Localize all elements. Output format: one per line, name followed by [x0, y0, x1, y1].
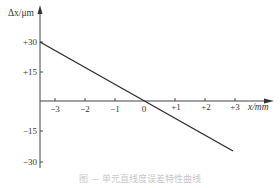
y-tick-label: −30 — [23, 157, 38, 167]
x-tick-label: −3 — [50, 104, 60, 114]
chart: −3 −2 −1 0 +1 +2 +3 x/mm +30 +15 −15 −30… — [0, 0, 280, 188]
x-axis-title: x/mm — [247, 102, 269, 112]
x-tick-label: +3 — [230, 102, 240, 112]
y-tick-label: −15 — [23, 126, 38, 136]
figure-caption: 图 — 单元直线度误差特性曲线 — [0, 172, 280, 185]
y-axis-arrow-icon — [38, 5, 43, 14]
data-line — [40, 42, 233, 151]
y-tick-label: +30 — [23, 37, 38, 47]
x-tick-label: 0 — [142, 104, 147, 114]
y-tick-label: +15 — [23, 67, 38, 77]
x-tick-label: +1 — [171, 102, 181, 112]
x-tick-label: +2 — [201, 102, 211, 112]
y-axis-title: Δx/μm — [8, 8, 35, 18]
x-tick-label: −2 — [80, 104, 90, 114]
x-tick-label: −1 — [110, 104, 120, 114]
